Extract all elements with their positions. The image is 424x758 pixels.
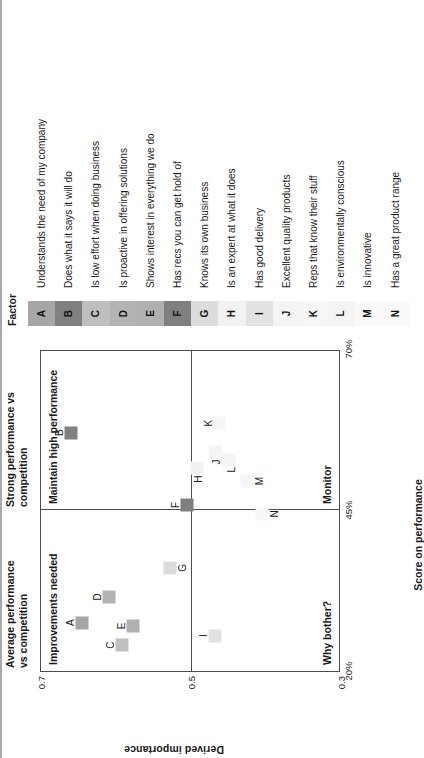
- legend-text-A: Understands the need of my company: [36, 119, 47, 301]
- legend-row: MIs innovative: [354, 6, 381, 326]
- y-axis-tick-0.5: 0.5: [186, 676, 197, 689]
- data-point-M: [241, 475, 254, 488]
- legend-text-E: Shows interest in everything we do: [145, 133, 156, 301]
- legend-row: GKnows its own business: [191, 6, 218, 326]
- y-axis-title: Derived importance: [124, 744, 224, 756]
- header-strong-performance: Strong performance vs competition: [4, 392, 30, 507]
- data-point-B: [65, 426, 78, 439]
- plot-area: 0.30.50.720%45%70%Improvements neededMai…: [40, 350, 340, 672]
- legend-row: JExcellent quality products: [273, 6, 300, 326]
- legend-key-K: K: [300, 301, 327, 326]
- header-average-performance-line2: vs competition: [17, 560, 30, 668]
- data-point-label-H: H: [193, 476, 204, 483]
- legend-row: AUnderstands the need of my company: [28, 6, 55, 326]
- legend-text-M: Is innovative: [362, 232, 373, 301]
- legend-text-C: Is low effort when doing business: [90, 141, 101, 301]
- legend-key-A: A: [28, 301, 55, 326]
- data-point-label-D: D: [91, 593, 102, 600]
- data-point-L: [223, 453, 236, 466]
- quadrant-label-monitor: Monitor: [321, 466, 333, 505]
- data-point-label-E: E: [115, 623, 126, 630]
- data-point-label-G: G: [177, 564, 188, 572]
- legend-row: LIs environmentally conscious: [327, 6, 354, 326]
- data-point-label-I: I: [198, 634, 209, 637]
- data-point-D: [102, 590, 115, 603]
- quadrant-label-maintain-high-performance: Maintain high performance: [47, 370, 59, 504]
- legend-text-D: Is proactive in offering solutions: [118, 148, 129, 301]
- data-point-label-M: M: [254, 477, 265, 485]
- quadrant-label-why-bother: Why bother?: [321, 601, 333, 665]
- legend-key-G: G: [191, 301, 218, 326]
- legend-key-J: J: [273, 301, 300, 326]
- data-point-H: [191, 462, 204, 475]
- legend-text-J: Excellent quality products: [281, 175, 292, 301]
- legend-text-N: Has a great product range: [390, 172, 401, 301]
- legend-row: DIs proactive in offering solutions: [110, 6, 137, 326]
- legend-text-I: Has good delivery: [254, 208, 265, 301]
- data-point-K: [212, 417, 225, 430]
- data-point-label-F: F: [170, 502, 181, 508]
- x-axis-tick-70%: 70%: [343, 339, 354, 358]
- data-point-A: [76, 616, 89, 629]
- data-point-J: [209, 446, 222, 459]
- legend-key-H: H: [218, 301, 245, 326]
- data-point-label-A: A: [65, 619, 76, 626]
- legend-text-L: Is environmentally conscious: [335, 160, 346, 301]
- data-point-F: [181, 498, 194, 511]
- legend-text-B: Does what it says it will do: [63, 171, 74, 301]
- legend-text-F: Has recs you can get hold of: [172, 161, 183, 301]
- legend-key-I: I: [246, 301, 273, 326]
- data-point-N: [256, 507, 269, 520]
- legend-text-G: Knows its own business: [199, 182, 210, 301]
- data-point-label-L: L: [226, 467, 237, 473]
- page-edge-rule: [0, 0, 2, 758]
- legend-key-C: C: [82, 301, 109, 326]
- legend-row: EShows interest in everything we do: [137, 6, 164, 326]
- header-strong-performance-line1: Strong performance vs: [4, 392, 17, 507]
- x-axis-tick-20%: 20%: [343, 661, 354, 680]
- factor-legend: Factor AUnderstands the need of my compa…: [6, 6, 414, 326]
- x-axis-tick-45%: 45%: [343, 500, 354, 519]
- legend-row: CIs low effort when doing business: [82, 6, 109, 326]
- quadrant-scatter-chart: Derived importance Score on performance …: [18, 346, 390, 724]
- legend-key-B: B: [55, 301, 82, 326]
- quadrant-label-improvements-needed: Improvements needed: [47, 554, 59, 665]
- header-average-performance-line1: Average performance: [4, 560, 17, 668]
- legend-row: BDoes what it says it will do: [55, 6, 82, 326]
- data-point-label-N: N: [269, 510, 280, 517]
- data-point-label-B: B: [54, 429, 65, 436]
- legend-row-list: AUnderstands the need of my companyBDoes…: [28, 6, 409, 326]
- legend-key-L: L: [327, 301, 354, 326]
- data-point-C: [116, 639, 129, 652]
- x-axis-title: Score on performance: [412, 346, 424, 724]
- legend-row: NHas a great product range: [381, 6, 408, 326]
- data-point-G: [164, 561, 177, 574]
- legend-key-D: D: [110, 301, 137, 326]
- legend-key-M: M: [354, 301, 381, 326]
- legend-row: HIs an expert at what it does: [218, 6, 245, 326]
- header-strong-performance-line2: competition: [17, 392, 30, 507]
- data-point-E: [126, 619, 139, 632]
- legend-key-F: F: [164, 301, 191, 326]
- data-point-label-K: K: [202, 420, 213, 427]
- legend-row: IHas good delivery: [246, 6, 273, 326]
- legend-text-K: Reps that know their stuff: [308, 175, 319, 301]
- legend-text-H: Is an expert at what it does: [226, 168, 237, 301]
- header-average-performance: Average performance vs competition: [4, 560, 30, 668]
- legend-key-E: E: [137, 301, 164, 326]
- legend-key-N: N: [381, 301, 408, 326]
- legend-title: Factor: [6, 294, 18, 326]
- legend-row: FHas recs you can get hold of: [164, 6, 191, 326]
- legend-row: KReps that know their stuff: [300, 6, 327, 326]
- data-point-I: [209, 629, 222, 642]
- data-point-label-J: J: [211, 460, 222, 465]
- data-point-label-C: C: [105, 642, 116, 649]
- y-axis-tick-0.7: 0.7: [36, 676, 47, 689]
